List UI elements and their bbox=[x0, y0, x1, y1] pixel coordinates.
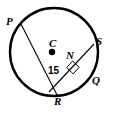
geometry-figure: P C S N Q R 15 bbox=[0, 0, 114, 113]
point-label-n: N bbox=[66, 50, 74, 61]
point-label-q: Q bbox=[92, 75, 100, 86]
point-label-r: R bbox=[54, 96, 61, 107]
point-label-c: C bbox=[49, 38, 56, 49]
point-label-p: P bbox=[6, 16, 13, 27]
segment-length-label: 15 bbox=[48, 66, 59, 76]
center-point-dot bbox=[49, 49, 55, 55]
point-label-s: S bbox=[96, 36, 102, 47]
